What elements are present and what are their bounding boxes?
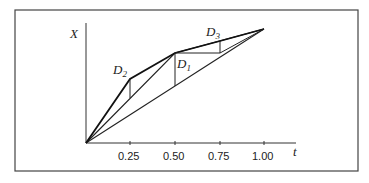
x-axis-label: t xyxy=(293,144,297,160)
label-d2: D2 xyxy=(113,62,127,78)
d2-subscript: 2 xyxy=(122,69,127,79)
tick-label-075: 0.75 xyxy=(208,150,229,162)
d1-letter: D xyxy=(177,56,186,71)
d3-chord xyxy=(220,29,264,53)
tick-label-050: 0.50 xyxy=(163,150,184,162)
y-axis-label: X xyxy=(70,26,78,42)
tick-label-100: 1.00 xyxy=(252,150,273,162)
d3-letter: D xyxy=(206,24,215,39)
d2-letter: D xyxy=(113,62,122,77)
frame xyxy=(15,10,358,171)
label-d3: D3 xyxy=(206,24,220,40)
label-d1: D1 xyxy=(177,56,191,72)
d1-subscript: 1 xyxy=(186,63,191,73)
brownian-bridge-diagram xyxy=(0,0,369,183)
tick-label-025: 0.25 xyxy=(118,150,139,162)
d3-subscript: 3 xyxy=(215,31,220,41)
